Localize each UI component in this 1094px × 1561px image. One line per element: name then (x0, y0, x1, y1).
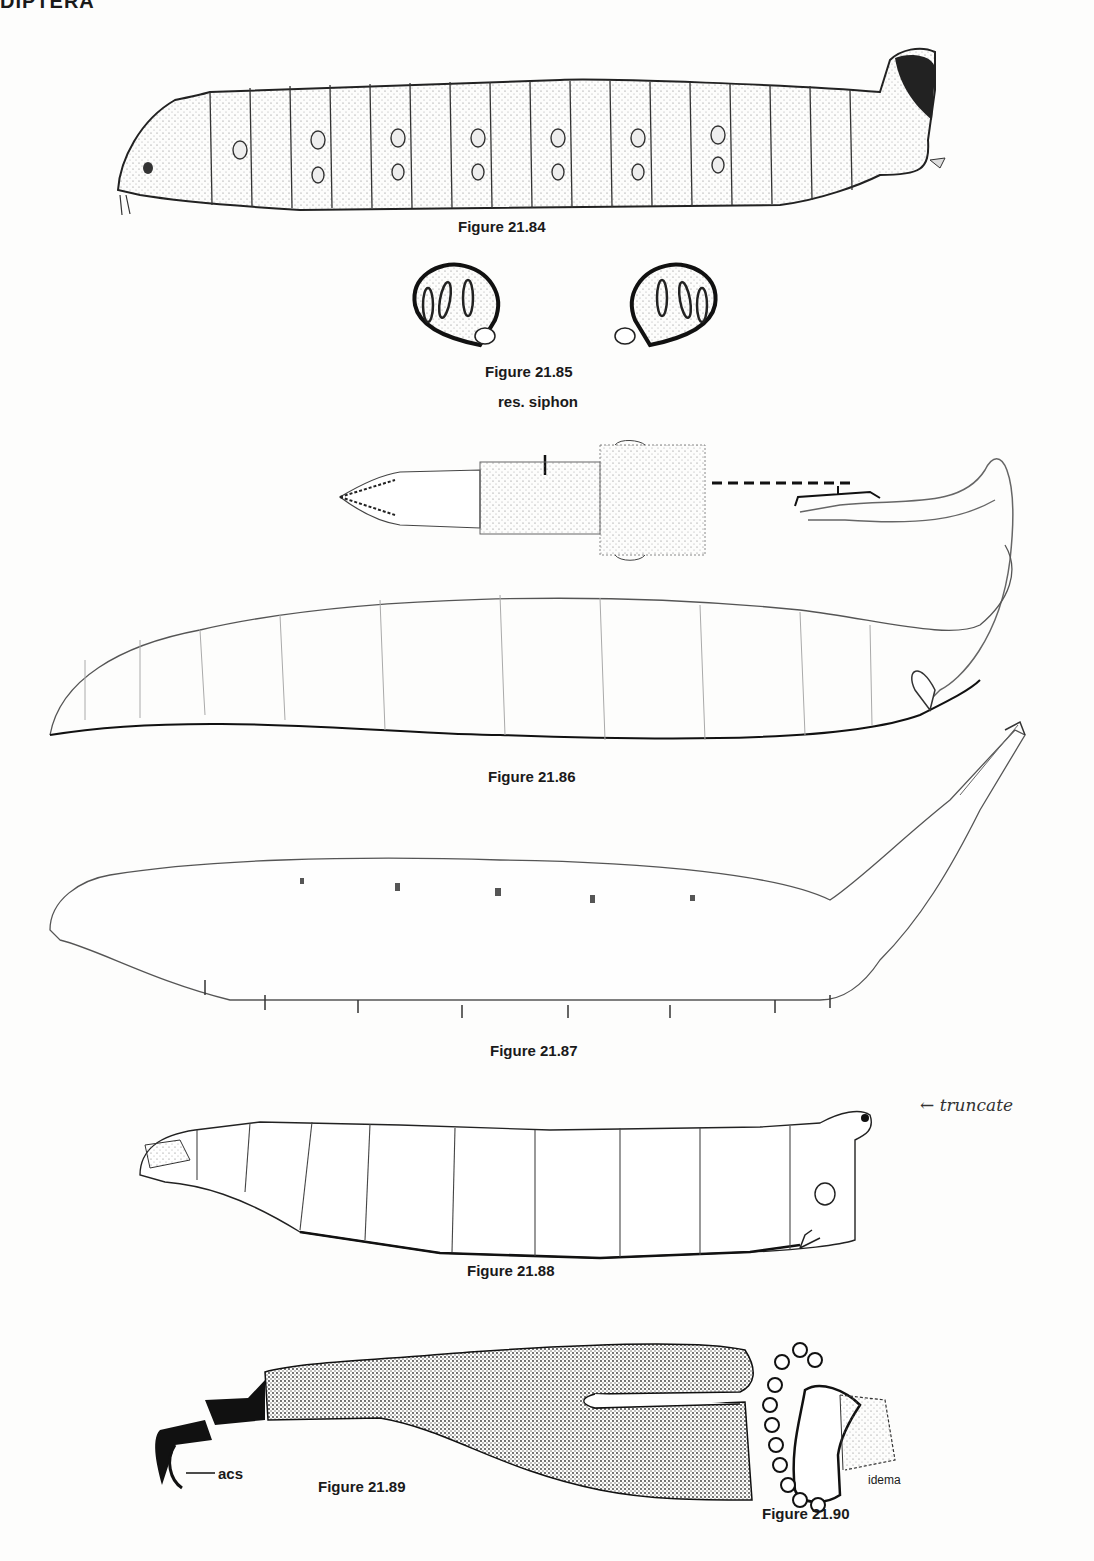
figure-21-86-drawing (50, 440, 1013, 740)
figure-21-89-drawing (155, 1344, 753, 1500)
figure-caption-21-86: Figure 21.86 (488, 768, 576, 785)
figure-caption-21-89: Figure 21.89 (318, 1478, 406, 1495)
label-idema: idema (868, 1473, 901, 1487)
figure-caption-21-84: Figure 21.84 (458, 218, 546, 235)
figure-caption-21-85: Figure 21.85 (485, 363, 573, 380)
figure-21-87-drawing (50, 722, 1025, 1018)
handwritten-annotation-truncate: ← truncate (920, 1095, 1013, 1115)
figure-21-84-larva-drawing (118, 49, 945, 215)
figure-caption-21-88: Figure 21.88 (467, 1262, 555, 1279)
label-res-siphon: res. siphon (498, 393, 578, 410)
figure-21-85-spiracles-drawing (414, 265, 715, 345)
figure-21-88-drawing (140, 1112, 871, 1258)
label-acs: acs (218, 1465, 243, 1482)
figure-caption-21-90: Figure 21.90 (762, 1505, 850, 1522)
figure-caption-21-87: Figure 21.87 (490, 1042, 578, 1059)
